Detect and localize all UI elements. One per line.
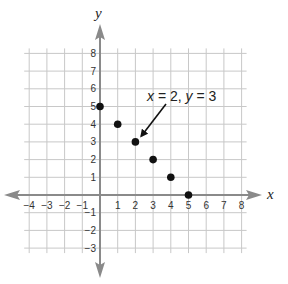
- y-tick-label: 1: [90, 172, 96, 183]
- x-tick-label: 6: [203, 200, 209, 211]
- data-point: [149, 156, 157, 164]
- y-axis-label: y: [93, 5, 102, 21]
- y-tick-label: 4: [90, 119, 96, 130]
- y-tick-label: −3: [85, 243, 97, 254]
- y-tick-label: −1: [85, 207, 97, 218]
- x-tick-label: 1: [115, 200, 121, 211]
- x-tick-label: 3: [150, 200, 156, 211]
- x-axis-label: x: [266, 186, 274, 202]
- x-tick-label: −3: [41, 200, 53, 211]
- x-tick-label: 4: [168, 200, 174, 211]
- y-tick-label: −2: [85, 225, 97, 236]
- y-tick-label: 7: [90, 66, 96, 77]
- tick-labels: −4−3−2−112345678−3−2−112345678: [23, 48, 244, 254]
- x-tick-label: 8: [239, 200, 245, 211]
- y-tick-label: 5: [90, 101, 96, 112]
- data-points: [96, 103, 192, 199]
- y-tick-label: 2: [90, 154, 96, 165]
- y-tick-label: 6: [90, 83, 96, 94]
- x-tick-label: −2: [59, 200, 71, 211]
- x-tick-label: 7: [221, 200, 227, 211]
- coordinate-plane: −4−3−2−112345678−3−2−112345678 x = 2, y …: [0, 0, 288, 284]
- data-point: [96, 103, 104, 111]
- y-tick-label: 3: [90, 136, 96, 147]
- y-tick-label: 8: [90, 48, 96, 59]
- grid-lines: [24, 48, 246, 253]
- axes: [4, 24, 262, 278]
- annotation-arrow-icon: [141, 104, 166, 136]
- data-point: [185, 191, 193, 199]
- data-point: [114, 120, 122, 128]
- x-tick-label: −4: [23, 200, 35, 211]
- x-tick-label: 5: [186, 200, 192, 211]
- data-point: [132, 138, 140, 146]
- data-point: [167, 174, 175, 182]
- annotation-label: x = 2, y = 3: [146, 88, 216, 104]
- x-tick-label: 2: [133, 200, 139, 211]
